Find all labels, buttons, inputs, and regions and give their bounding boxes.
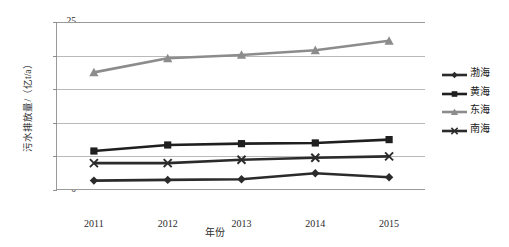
data-point [311,169,319,177]
data-point [385,173,393,181]
plot-area: 20112012201320142015 [56,22,425,190]
y-axis-title: 污水排放量/（亿t/a） [23,36,34,176]
legend-label: 渤海 [470,67,490,79]
legend-label: 南海 [470,123,490,135]
legend-key-icon [441,123,468,135]
data-point [312,139,319,146]
data-point [164,141,171,148]
data-point [90,176,98,184]
data-point [237,175,245,183]
series-2 [90,136,392,155]
chart-legend: 渤海黄海东海南海 [441,67,490,135]
legend-item-渤海[interactable]: 渤海 [441,67,490,79]
y-tick-mark [53,190,57,191]
legend-item-南海[interactable]: 南海 [441,123,490,135]
data-point [238,140,245,147]
x-axis-title: 年份 [0,224,430,239]
series-4 [90,152,393,167]
series-3 [89,36,393,76]
data-point [90,147,97,154]
data-point [164,176,172,184]
legend-key-icon [441,67,468,79]
series-1 [90,169,394,185]
chart-figure: 污水排放量/（亿t/a） 0510152025 2011201220132014… [0,0,509,247]
series-layer [57,22,426,190]
legend-key-icon [441,86,468,98]
legend-label: 东海 [470,104,490,116]
legend-item-黄海[interactable]: 黄海 [441,86,490,98]
legend-item-东海[interactable]: 东海 [441,104,490,116]
data-point [386,136,393,143]
legend-key-icon [441,104,468,116]
legend-label: 黄海 [470,86,490,98]
